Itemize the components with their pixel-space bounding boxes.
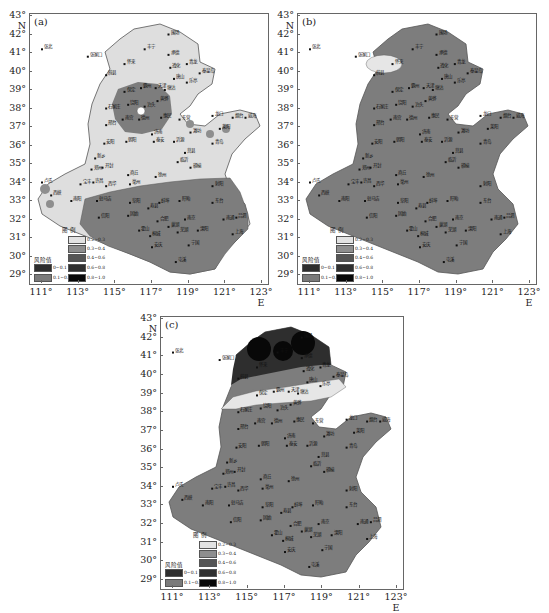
city-marker: [500, 233, 502, 235]
city-marker: [373, 124, 375, 126]
city-marker: [370, 167, 372, 169]
city-label: 宁国: [324, 544, 333, 551]
city-marker: [103, 143, 105, 145]
city-label: 威海: [516, 112, 525, 119]
city-label: 塘沽: [300, 388, 309, 395]
legend-range-label: 0.4~0.6: [355, 255, 373, 260]
city-marker: [199, 72, 201, 74]
city-marker: [284, 437, 286, 439]
city-marker: [319, 385, 321, 387]
city-label: 盱眙: [450, 195, 459, 202]
city-marker: [321, 549, 323, 551]
city-marker: [346, 490, 348, 492]
city-marker: [443, 261, 445, 263]
x-tick-label: 123° E: [380, 591, 412, 613]
city-label: 沂源: [176, 136, 185, 143]
y-tick: [297, 274, 300, 275]
legend-title: 图 例: [193, 531, 207, 539]
panel-label: (b): [302, 16, 316, 27]
city-label: 西峡: [321, 189, 330, 196]
y-tick-label: 31°: [0, 231, 26, 242]
city-label: 青龙: [457, 58, 466, 65]
y-tick-label: 39°: [0, 83, 26, 94]
city-label: 卢氏: [44, 177, 53, 184]
city-label: 芜湖: [180, 226, 189, 233]
city-label: 驻马店: [367, 195, 380, 202]
y-tick-label: 33°: [268, 194, 294, 205]
city-marker: [168, 54, 170, 56]
city-marker: [190, 167, 192, 169]
legend-swatch: [68, 264, 86, 272]
city-label: 青岛: [215, 138, 224, 145]
city-label: 西华: [108, 180, 117, 187]
map-panel-c: 张北张家口丰宁围场承德怀来蔚县遵化青龙秦皇岛唐山乐亭保定霸州天津塘沽黄骅石家庄饶…: [131, 303, 412, 604]
city-label: 徐州: [158, 171, 167, 178]
city-label: 溧阳: [334, 529, 343, 536]
city-marker: [373, 185, 375, 187]
city-label: 济南: [422, 128, 431, 135]
city-label: 秦皇岛: [470, 67, 483, 74]
legend-range-label: 0.6~0.8: [218, 570, 236, 575]
city-marker: [436, 226, 438, 228]
city-label: 承德: [304, 352, 313, 359]
legend-range-label: 0.6~0.8: [355, 265, 373, 270]
city-marker: [177, 161, 179, 163]
x-tick-label: 121°: [343, 591, 375, 602]
city-label: 莒县: [187, 147, 196, 154]
city-label: 南通: [226, 214, 235, 221]
city-label: 石家庄: [108, 103, 121, 110]
city-label: 饶阳: [263, 402, 272, 409]
city-label: 朝阳: [396, 136, 405, 143]
x-tick: [321, 585, 322, 588]
city-label: 霍山: [274, 529, 283, 536]
city-marker: [157, 220, 159, 222]
city-label: 宁国: [191, 239, 200, 246]
city-marker: [151, 246, 153, 248]
city-label: 开封: [105, 162, 114, 169]
y-tick: [29, 219, 32, 220]
y-tick: [297, 163, 300, 164]
city-marker: [157, 100, 159, 102]
city-label: 天津: [426, 82, 435, 89]
x-tick-label: 111°: [156, 591, 188, 602]
y-tick: [29, 15, 32, 16]
city-label: 青岛: [349, 442, 358, 449]
city-marker: [212, 115, 214, 117]
city-marker: [297, 393, 299, 395]
city-marker: [426, 202, 428, 204]
y-tick: [297, 237, 300, 238]
city-marker: [415, 207, 417, 209]
city-marker: [312, 422, 314, 424]
city-label: 青岛: [483, 138, 492, 145]
city-label: 张北: [312, 43, 321, 50]
city-marker: [303, 370, 305, 372]
x-tick-label: 113°: [62, 286, 94, 297]
city-label: 霍山: [141, 225, 150, 232]
city-label: 信阳: [233, 516, 242, 523]
city-marker: [353, 432, 355, 434]
city-label: 德州: [141, 114, 150, 121]
legend-risk-label: 风险值: [165, 561, 183, 569]
y-tick-label: 31°: [268, 231, 294, 242]
y-tick: [160, 393, 163, 394]
city-label: 莱阳: [490, 123, 499, 130]
city-marker: [124, 91, 126, 93]
city-marker: [291, 506, 293, 508]
city-marker: [318, 194, 320, 196]
city-label: 寿县: [283, 507, 292, 514]
x-tick-label: 117°: [268, 591, 300, 602]
city-marker: [395, 174, 397, 176]
city-label: 郑州: [225, 468, 234, 475]
city-marker: [122, 119, 124, 121]
x-tick: [492, 280, 493, 283]
city-label: 蚌埠: [294, 501, 303, 508]
city-label: 盱眙: [315, 499, 324, 506]
city-label: 盱眙: [182, 195, 191, 202]
city-label: 徐州: [426, 171, 435, 178]
city-label: 邢台: [240, 423, 249, 430]
city-marker: [284, 551, 286, 553]
city-label: 德州: [274, 417, 283, 424]
city-marker: [480, 143, 482, 145]
city-marker: [318, 456, 320, 458]
legend-risk-label: 风险值: [302, 256, 320, 264]
